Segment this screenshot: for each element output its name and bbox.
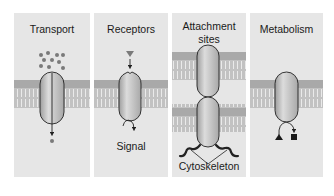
attachment-protein-upper-icon bbox=[197, 45, 219, 97]
diagram-graphics bbox=[0, 0, 334, 196]
ligand-triangle-icon bbox=[126, 51, 134, 57]
product-square-icon bbox=[291, 134, 297, 140]
solute-particles-icon bbox=[39, 51, 65, 70]
cytoskeleton-pointer-lines bbox=[191, 150, 227, 164]
transport-channel-protein-icon bbox=[40, 72, 64, 143]
receptor-protein-icon bbox=[119, 51, 141, 129]
substrate-triangle-icon bbox=[275, 134, 283, 140]
enzyme-protein-icon bbox=[275, 72, 298, 140]
attachment-protein-lower-icon bbox=[197, 97, 219, 147]
signal-arrow-icon bbox=[123, 120, 134, 129]
